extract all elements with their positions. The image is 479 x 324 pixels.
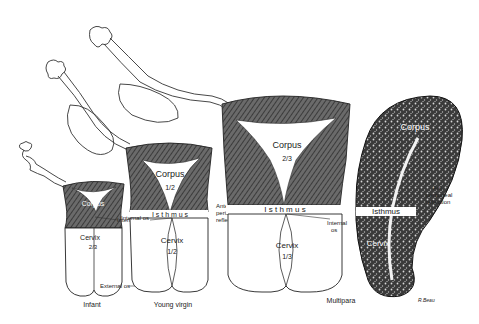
infant-corpus-label: Corpus	[82, 200, 105, 208]
uterus-diagram: 1/3 Corpus Cervix 2/3 Internal os Extern…	[0, 0, 479, 324]
multipara-caption: Multipara	[327, 297, 356, 305]
young-virgin-fallopian-tube-and-ovary	[46, 60, 130, 155]
young-virgin-corpus-fraction: 1/2	[165, 184, 175, 191]
sagittal-isthmus-label: Isthmus	[372, 207, 400, 216]
young-virgin-cervix-fraction: 1/2	[167, 248, 177, 255]
infant-fallopian-tube	[19, 142, 66, 189]
multipara-fallopian-tube-and-ovary	[90, 26, 231, 122]
sagittal-cervix-label: Cervix	[367, 239, 390, 248]
sagittal-section-specimen: Corpus Isthmus Cervix Ant. peritoneal re…	[356, 96, 463, 303]
sagittal-peritoneal-label-3: reflection	[426, 199, 450, 205]
infant-caption: Infant	[83, 301, 101, 308]
multipara-internal-os-label-1: Internal	[327, 220, 347, 226]
young-virgin-corpus-label: Corpus	[155, 169, 185, 179]
infant-corpus-fraction: 1/3	[89, 193, 98, 199]
young-virgin-isthmus-label: I s t h m u s	[152, 211, 189, 218]
multipara-corpus-label: Corpus	[272, 140, 302, 150]
young-virgin-internal-os-label: Internal os	[121, 215, 149, 221]
sagittal-corpus-label: Corpus	[400, 122, 430, 132]
infant-cervix-label: Cervix	[80, 234, 100, 241]
multipara-cervix-fraction: 1/3	[282, 253, 292, 260]
external-os-label: External os	[100, 283, 130, 289]
multipara-internal-os-label-2: os	[331, 227, 337, 233]
infant-cervix-fraction: 2/3	[89, 244, 98, 250]
sagittal-peritoneal-label-1: Ant.	[433, 185, 444, 191]
multipara-corpus-fraction: 2/3	[282, 155, 292, 162]
young-virgin-cervix-label: Cervix	[161, 236, 184, 245]
multipara-isthmus-label: I s t h m u s	[264, 205, 305, 214]
artist-signature: R.Beau	[418, 297, 435, 303]
young-virgin-caption: Young virgin	[154, 301, 192, 309]
sagittal-peritoneal-label-2: peritoneal	[426, 192, 452, 198]
multipara-cervix-label: Cervix	[276, 241, 299, 250]
